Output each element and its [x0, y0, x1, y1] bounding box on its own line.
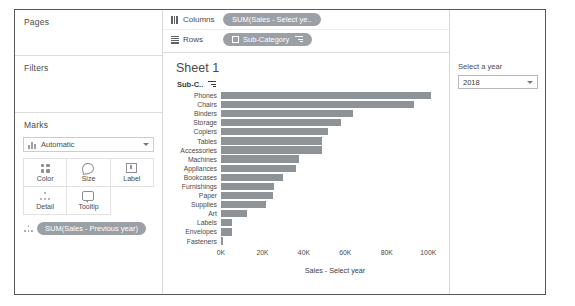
- bar-category-label[interactable]: Chairs: [176, 100, 221, 109]
- bar-category-label[interactable]: Appliances: [176, 164, 221, 173]
- chevron-down-icon: [143, 143, 149, 146]
- x-axis: 0K20K40K60K80K100K: [221, 246, 449, 268]
- bar-mark[interactable]: [221, 192, 273, 199]
- sort-descending-icon[interactable]: [208, 81, 216, 88]
- bar-mark[interactable]: [221, 210, 247, 217]
- columns-shelf-pill[interactable]: SUM(Sales - Select ye..: [223, 13, 321, 26]
- bar-track: [221, 209, 449, 218]
- marks-buttons-grid: Color Size Label Detail: [23, 158, 154, 215]
- bar-mark[interactable]: [221, 228, 232, 235]
- bar-row: Bookcases: [176, 173, 449, 182]
- bar-track: [221, 164, 449, 173]
- bar-category-label[interactable]: Furnishings: [176, 182, 221, 191]
- bar-track: [221, 155, 449, 164]
- bar-category-label[interactable]: Envelopes: [176, 227, 221, 236]
- bar-mark[interactable]: [221, 219, 232, 226]
- bar-category-label[interactable]: Paper: [176, 191, 221, 200]
- rows-shelf-label: Rows: [183, 35, 203, 44]
- bar-track: [221, 218, 449, 227]
- bar-category-label[interactable]: Art: [176, 209, 221, 218]
- columns-shelf-label-group: Columns: [171, 15, 216, 24]
- bar-category-label[interactable]: Machines: [176, 155, 221, 164]
- bar-row: Fasteners: [176, 237, 449, 246]
- bar-mark[interactable]: [221, 174, 283, 181]
- bar-mark[interactable]: [221, 128, 328, 135]
- bar-mark[interactable]: [221, 92, 431, 99]
- marks-size-button[interactable]: Size: [67, 159, 110, 187]
- bar-category-label[interactable]: Storage: [176, 118, 221, 127]
- marks-card-pill[interactable]: SUM(Sales - Previous year): [37, 222, 146, 235]
- bar-category-label[interactable]: Copiers: [176, 127, 221, 136]
- marks-grid-empty-cell: [111, 187, 154, 215]
- bar-mark[interactable]: [221, 183, 274, 190]
- marks-color-button[interactable]: Color: [24, 159, 67, 187]
- bar-category-label[interactable]: Phones: [176, 91, 221, 100]
- bar-category-label[interactable]: Supplies: [176, 200, 221, 209]
- bar-track: [221, 182, 449, 191]
- columns-icon: [171, 16, 179, 24]
- bar-row: Furnishings: [176, 182, 449, 191]
- bar-mark[interactable]: [221, 137, 322, 144]
- columns-shelf[interactable]: Columns SUM(Sales - Select ye..: [163, 10, 449, 29]
- bar-category-label[interactable]: Accessories: [176, 146, 221, 155]
- sort-descending-icon[interactable]: [295, 36, 303, 43]
- worksheet-area: Columns SUM(Sales - Select ye.. Rows Sub…: [163, 10, 449, 294]
- filters-panel[interactable]: Filters: [15, 56, 162, 113]
- mark-type-dropdown[interactable]: Automatic: [23, 137, 154, 152]
- pages-panel[interactable]: Pages: [15, 10, 162, 56]
- pages-panel-title: Pages: [15, 10, 162, 27]
- bar-row: Labels: [176, 218, 449, 227]
- bar-track: [221, 118, 449, 127]
- detail-icon: [40, 191, 50, 201]
- detail-icon: [24, 225, 33, 232]
- bar-track: [221, 173, 449, 182]
- x-axis-tick: 100K: [420, 249, 436, 256]
- bar-track: [221, 91, 449, 100]
- bar-mark[interactable]: [221, 165, 296, 172]
- filter-sidebar: Select a year 2018: [449, 10, 545, 294]
- bar-mark[interactable]: [221, 155, 299, 162]
- tableau-worksheet-window: Pages Filters Marks Automatic Color: [14, 9, 546, 295]
- rows-shelf[interactable]: Rows Sub-Category: [163, 29, 449, 49]
- tooltip-icon: [82, 191, 94, 201]
- bar-category-label[interactable]: Bookcases: [176, 173, 221, 182]
- marks-panel-title: Marks: [15, 113, 162, 130]
- marks-detail-button[interactable]: Detail: [24, 187, 67, 215]
- year-filter-title: Select a year: [458, 62, 538, 71]
- filters-panel-title: Filters: [15, 56, 162, 73]
- bar-mark[interactable]: [221, 146, 322, 153]
- bar-mark[interactable]: [221, 201, 266, 208]
- bar-mark[interactable]: [221, 110, 353, 117]
- automatic-mark-icon: [28, 141, 37, 149]
- bar-track: [221, 100, 449, 109]
- left-sidebar: Pages Filters Marks Automatic Color: [15, 10, 163, 294]
- bar-track: [221, 227, 449, 236]
- chevron-down-icon: [527, 81, 533, 84]
- bar-row: Binders: [176, 109, 449, 118]
- rows-shelf-label-group: Rows: [171, 35, 216, 44]
- marks-tooltip-button[interactable]: Tooltip: [67, 187, 110, 215]
- row-field-header-label: Sub-C..: [177, 80, 203, 89]
- bar-category-label[interactable]: Labels: [176, 218, 221, 227]
- bar-category-label[interactable]: Fasteners: [176, 237, 221, 246]
- bar-chart: PhonesChairsBindersStorageCopiersTablesA…: [176, 91, 449, 246]
- bar-row: Storage: [176, 118, 449, 127]
- bar-mark[interactable]: [221, 237, 223, 244]
- bar-category-label[interactable]: Tables: [176, 137, 221, 146]
- visualization-canvas[interactable]: Sheet 1 Sub-C.. PhonesChairsBindersStora…: [163, 53, 449, 294]
- row-field-header[interactable]: Sub-C..: [177, 80, 449, 89]
- bar-mark[interactable]: [221, 101, 414, 108]
- bar-category-label[interactable]: Binders: [176, 109, 221, 118]
- rows-pill-label: Sub-Category: [243, 35, 289, 44]
- x-axis-tick: 60K: [339, 249, 351, 256]
- marks-detail-label: Detail: [36, 203, 54, 210]
- year-filter-dropdown[interactable]: 2018: [458, 75, 538, 89]
- rows-shelf-pill[interactable]: Sub-Category: [223, 33, 312, 46]
- bar-row: Chairs: [176, 100, 449, 109]
- bar-row: Appliances: [176, 164, 449, 173]
- marks-label-button[interactable]: Label: [111, 159, 154, 187]
- x-axis-tick: 0K: [217, 249, 225, 256]
- bar-mark[interactable]: [221, 119, 341, 126]
- bar-row: Supplies: [176, 200, 449, 209]
- bar-track: [221, 237, 449, 246]
